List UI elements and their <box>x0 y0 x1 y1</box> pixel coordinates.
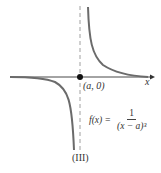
function-fraction: 1 (x − a)³ <box>117 108 146 132</box>
fraction-numerator: 1 <box>127 108 136 120</box>
function-lhs: f(x) = <box>89 115 111 125</box>
graph-canvas <box>0 0 161 173</box>
curve-left-branch <box>10 77 74 150</box>
function-formula: f(x) = 1 (x − a)³ <box>89 108 146 132</box>
point-label: (a, 0) <box>83 80 105 91</box>
curve-right-branch <box>88 7 148 77</box>
figure-caption: (III) <box>72 152 89 163</box>
x-axis-label: x <box>145 76 149 87</box>
fraction-denominator: (x − a)³ <box>117 120 146 132</box>
x-axis-arrow-icon <box>150 75 155 80</box>
